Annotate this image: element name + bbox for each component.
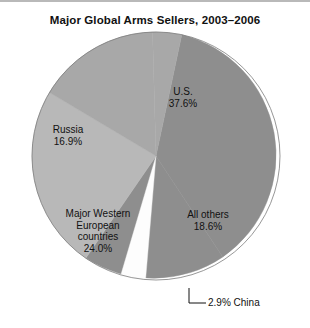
pie-label-us: U.S. 37.6% (140, 86, 226, 109)
pie-label-us-value: 37.6% (140, 98, 226, 110)
pie-label-russia-name: Russia (26, 124, 110, 136)
pie-label-all-others-value: 18.6% (166, 221, 250, 233)
pie-label-western-europe: Major Western European countries 24.0% (48, 208, 148, 254)
pie-label-weu-line1: Major Western (48, 208, 148, 220)
pie-chart-graphic (0, 0, 310, 328)
pie-label-weu-value: 24.0% (48, 243, 148, 255)
china-leader-line (189, 288, 206, 303)
pie-label-russia: Russia 16.9% (26, 124, 110, 147)
pie-label-us-name: U.S. (140, 86, 226, 98)
pie-label-weu-line2: European (48, 220, 148, 232)
pie-label-all-others-name: All others (166, 209, 250, 221)
chart-figure: Major Global Arms Sellers, 2003–2006 U.S… (0, 0, 310, 328)
pie-label-china: 2.9% China (208, 297, 260, 309)
pie-label-all-others: All others 18.6% (166, 209, 250, 232)
pie-label-weu-line3: countries (48, 231, 148, 243)
pie-label-russia-value: 16.9% (26, 136, 110, 148)
